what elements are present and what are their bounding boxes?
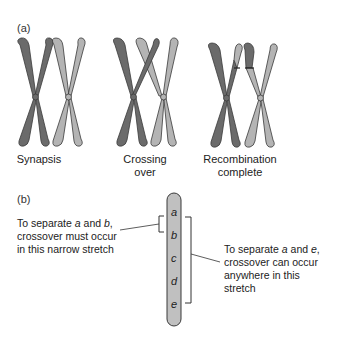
caption-line: Recombination <box>198 153 282 166</box>
stage-caption-synapsis: Synapsis <box>14 153 64 166</box>
gene-label-d: d <box>171 275 177 288</box>
text: , <box>317 243 320 255</box>
narrow-bracket <box>159 216 164 232</box>
text: , <box>110 217 113 229</box>
caption-line: complete <box>198 166 282 179</box>
narrow-stretch-note: To separate a and b, crossover must occu… <box>17 217 157 256</box>
wide-bracket-leader <box>191 254 220 262</box>
panel-b-label: (b) <box>17 193 30 205</box>
gene-label-b: b <box>171 229 177 242</box>
wide-bracket <box>185 217 191 303</box>
stage-caption-recombination-complete: Recombination complete <box>198 153 282 179</box>
gene-label-c: c <box>171 252 177 265</box>
note-line-2: crossover can occur <box>224 256 340 269</box>
wide-stretch-note: To separate a and e, crossover can occur… <box>224 243 340 295</box>
text: To separate <box>224 243 282 255</box>
note-line-1: To separate a and e, <box>224 243 340 256</box>
synapsis-light-chromosome <box>52 38 85 146</box>
synapsis-dark-chromosome <box>18 38 53 146</box>
note-line-3: anywhere in this <box>224 269 340 282</box>
recombinant-dark-chromosome <box>208 43 242 147</box>
gene-label-a: a <box>171 206 177 219</box>
text: and <box>81 217 104 229</box>
text: To separate <box>17 217 75 229</box>
note-line-4: stretch <box>224 282 340 295</box>
recombinant-light-chromosome <box>244 43 277 147</box>
note-line-1: To separate a and b, <box>17 217 157 230</box>
note-line-2: crossover must occur <box>17 230 157 243</box>
caption-line: over <box>115 166 175 179</box>
caption-line: Crossing <box>115 153 175 166</box>
caption-line: Synapsis <box>14 153 64 166</box>
gene-label-e: e <box>171 298 177 311</box>
stage-caption-crossing-over: Crossing over <box>115 153 175 179</box>
note-line-3: in this narrow stretch <box>17 243 157 256</box>
crossing-dark-chromosome <box>113 38 159 146</box>
text: and <box>288 243 311 255</box>
